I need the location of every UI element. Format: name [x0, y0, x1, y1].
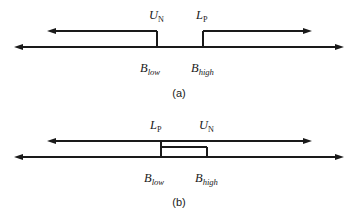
- panel-a-un-arrowhead: [47, 28, 56, 34]
- panel-a-label-lp: LP: [195, 8, 208, 24]
- panel-b-label-un: UN: [199, 118, 214, 134]
- panel-a-lp-arrowhead: [303, 28, 312, 34]
- panel-a-axis-right-arrowhead: [335, 44, 344, 50]
- panel-a-label-bhigh: Bhigh: [191, 61, 214, 77]
- panel-a: UN LP Blow Bhigh (a): [14, 8, 344, 99]
- panel-b-un-arrowhead: [303, 138, 312, 144]
- panel-a-range-un: [47, 28, 157, 47]
- panel-b-range-un: [161, 138, 312, 144]
- panel-a-caption: (a): [172, 87, 185, 99]
- figure-container: UN LP Blow Bhigh (a): [0, 0, 358, 218]
- panel-b-range-lp: [47, 138, 161, 157]
- interval-diagram: UN LP Blow Bhigh (a): [0, 0, 358, 218]
- panel-b-inner-box: [161, 147, 207, 157]
- panel-a-label-blow: Blow: [140, 61, 160, 77]
- panel-b-axis-right-arrowhead: [335, 154, 344, 160]
- panel-b-caption: (b): [172, 196, 185, 208]
- panel-a-label-un: UN: [149, 8, 164, 24]
- panel-b: LP UN Blow Bhigh (b): [14, 118, 344, 208]
- panel-b-label-lp: LP: [149, 118, 162, 134]
- panel-b-axis: [14, 154, 344, 160]
- panel-b-label-bhigh: Bhigh: [195, 171, 218, 187]
- panel-a-range-lp: [203, 28, 312, 47]
- panel-b-axis-left-arrowhead: [14, 154, 23, 160]
- panel-a-axis: [14, 44, 344, 50]
- panel-b-label-blow: Blow: [144, 171, 164, 187]
- panel-b-lp-arrowhead: [47, 138, 56, 144]
- panel-a-axis-left-arrowhead: [14, 44, 23, 50]
